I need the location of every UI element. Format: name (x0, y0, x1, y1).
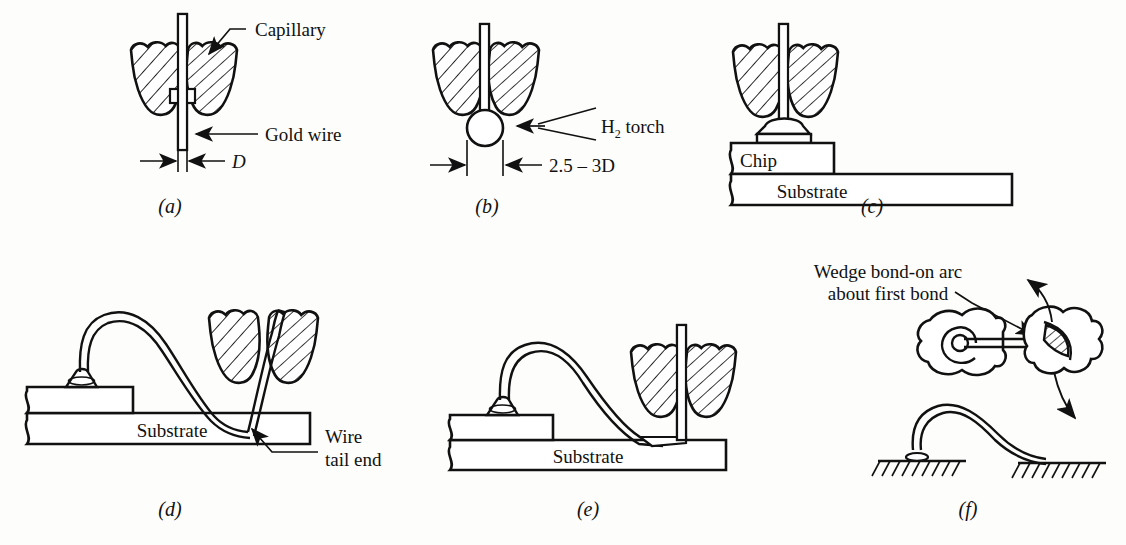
wire-bonding-process-diagram: Capillary Gold wire D (a) (0, 0, 1126, 545)
gold-wire-front (779, 24, 788, 124)
panel-letter-d: (d) (158, 498, 182, 521)
panel-letter-c: (c) (861, 195, 884, 218)
ball-bond-base (757, 134, 811, 143)
gold-wire-front (178, 14, 187, 150)
gold-wire-label: Gold wire (265, 124, 342, 145)
panel-letter-b: (b) (475, 195, 499, 218)
gold-wire-front (677, 325, 686, 440)
panel-letter-e: (e) (577, 498, 600, 521)
second-bond-pad-plan (1024, 307, 1102, 374)
molten-ball (467, 110, 503, 146)
figure-canvas: Capillary Gold wire D (a) (0, 0, 1126, 545)
chip-label: Chip (740, 150, 777, 171)
capillary-label: Capillary (255, 19, 326, 40)
panel-letter-f: (f) (959, 498, 978, 521)
gold-wire-front (480, 24, 489, 120)
wire-tail-end-label-line2: tail end (325, 449, 382, 470)
wedge-bond-arc-label-line2: about first bond (828, 283, 949, 304)
first-bond-pad-plan (917, 309, 1005, 375)
wire-tail-end-label-line1: Wire (325, 426, 362, 447)
chip-block (449, 415, 553, 440)
ball-diameter-label: 2.5 – 3D (549, 155, 615, 176)
panel-letter-a: (a) (158, 195, 182, 218)
first-ball-bond (952, 335, 968, 351)
substrate-label: Substrate (137, 420, 208, 441)
substrate-label: Substrate (553, 446, 624, 467)
substrate-label: Substrate (777, 181, 848, 202)
wire-diameter-label: D (231, 151, 246, 172)
chip-block (26, 387, 133, 413)
wedge-bond-arc-label-line1: Wedge bond-on arc (814, 261, 962, 282)
